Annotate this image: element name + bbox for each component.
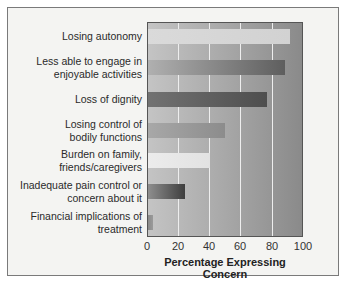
category-label: Loss of dignity bbox=[2, 93, 142, 106]
category-label: Burden on family, friends/caregivers bbox=[2, 148, 142, 174]
x-tick: 100 bbox=[288, 240, 318, 252]
x-tick: 40 bbox=[194, 240, 224, 252]
x-tick: 80 bbox=[257, 240, 287, 252]
category-label: Less able to engage in enjoyable activit… bbox=[2, 55, 142, 81]
bar bbox=[148, 60, 285, 75]
bar bbox=[148, 153, 210, 168]
bar bbox=[148, 215, 153, 230]
x-axis-label: Percentage Expressing Concern bbox=[147, 256, 303, 280]
category-label: Losing autonomy bbox=[2, 30, 142, 43]
category-label: Losing control of bodily functions bbox=[2, 118, 142, 144]
category-label: Inadequate pain control or concern about… bbox=[2, 179, 142, 205]
x-tick: 20 bbox=[163, 240, 193, 252]
gridline bbox=[240, 23, 241, 236]
category-label: Financial implications of treatment bbox=[2, 210, 142, 236]
x-tick: 60 bbox=[225, 240, 255, 252]
bar bbox=[148, 29, 290, 44]
x-tick: 0 bbox=[132, 240, 162, 252]
bar bbox=[148, 92, 267, 107]
gridline bbox=[272, 23, 273, 236]
plot-area bbox=[147, 22, 303, 237]
bar bbox=[148, 184, 185, 199]
bar bbox=[148, 123, 225, 138]
